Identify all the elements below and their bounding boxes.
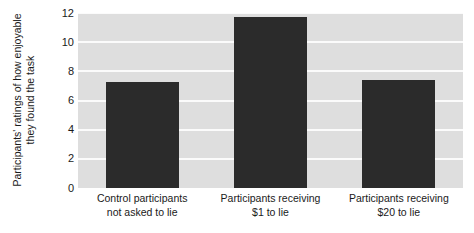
x-axis-tick-label-line-2: $20 to lie: [335, 205, 463, 219]
y-axis-tick-label: 0: [50, 183, 74, 194]
x-axis-tick-label-line-2: not asked to lie: [78, 205, 206, 219]
y-axis-title-line-2: they found the task: [24, 13, 37, 186]
plot-area: [78, 13, 463, 188]
bar: [106, 82, 179, 188]
y-axis-tick-label: 2: [50, 153, 74, 164]
x-axis-tick-label-line-2: $1 to lie: [206, 205, 334, 219]
x-axis-tick-label: Participants receiving$20 to lie: [335, 191, 463, 219]
y-axis-tick-label: 12: [50, 8, 74, 19]
y-axis-tick-label: 10: [50, 37, 74, 48]
x-axis-tick-label: Control participantsnot asked to lie: [78, 191, 206, 219]
x-axis-tick-labels: Control participantsnot asked to liePart…: [78, 191, 463, 231]
gridline: [78, 13, 463, 14]
bar-chart-figure: Participants' ratings of how enjoyable t…: [0, 0, 474, 233]
bar: [234, 17, 307, 188]
y-axis-tick-label: 4: [50, 124, 74, 135]
y-axis-tick-label: 6: [50, 95, 74, 106]
bar: [362, 80, 435, 188]
x-axis-tick-label: Participants receiving$1 to lie: [206, 191, 334, 219]
y-axis-tick-label: 8: [50, 66, 74, 77]
y-axis-title-line-1: Participants' ratings of how enjoyable: [11, 13, 23, 186]
x-axis-tick-label-line-1: Control participants: [97, 192, 187, 204]
x-axis-tick-label-line-1: Participants receiving: [221, 192, 321, 204]
x-axis-tick-label-line-1: Participants receiving: [349, 192, 449, 204]
y-axis-tick-labels: 024681012: [48, 0, 74, 200]
y-axis-title: Participants' ratings of how enjoyable t…: [0, 0, 48, 200]
